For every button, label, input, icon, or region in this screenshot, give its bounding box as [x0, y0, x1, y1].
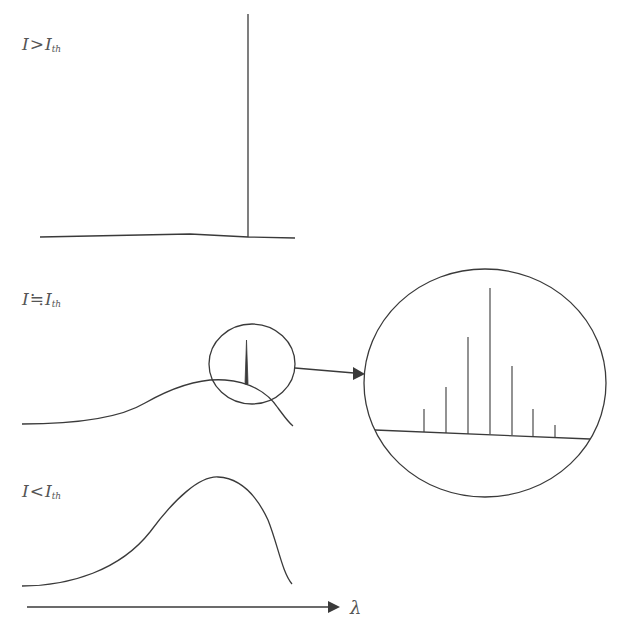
magnify-arrow-line [295, 368, 354, 373]
axis-arrowhead-icon [328, 601, 340, 613]
baseline-above-threshold [40, 234, 295, 238]
panel-above-threshold: I>Ith [21, 14, 295, 238]
inset-baseline [375, 430, 590, 439]
label-below-threshold: I<Ith [21, 481, 61, 501]
magnifier-small-circle [209, 324, 295, 404]
wavelength-axis: λ [27, 597, 361, 618]
magnify-arrowhead-icon [353, 367, 365, 380]
panel-near-threshold: I≒Ith [21, 269, 606, 497]
panel-below-threshold: I<Ith [21, 477, 292, 586]
axis-label-lambda: λ [349, 597, 361, 618]
label-near-threshold: I≒Ith [21, 289, 61, 309]
emerging-mode-spike [245, 340, 248, 384]
label-above-threshold: I>Ith [21, 34, 61, 54]
below-threshold-spectrum-curve [22, 477, 292, 586]
magnifier-large-circle [364, 269, 606, 497]
inset-magnified-modes [364, 269, 606, 497]
near-threshold-spectrum-curve [22, 380, 293, 426]
laser-spectrum-diagram: I>Ith I≒Ith I<Ith [0, 0, 625, 636]
